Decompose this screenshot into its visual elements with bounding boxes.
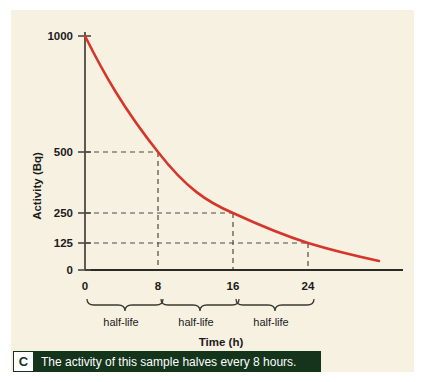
decay-chart: 1000 500 250 125 0 Activity (Bq) 0 8 16 … bbox=[11, 10, 414, 372]
y-tick-label-125: 125 bbox=[54, 237, 74, 249]
caption-letter: C bbox=[14, 352, 33, 371]
half-life-label-3: half-life bbox=[253, 316, 288, 328]
half-life-braces bbox=[87, 299, 314, 311]
brace-3 bbox=[236, 299, 314, 311]
half-life-label-2: half-life bbox=[178, 316, 213, 328]
x-tick-label-24: 24 bbox=[302, 280, 315, 292]
x-axis-title: Time (h) bbox=[199, 336, 244, 348]
x-tick-label-16: 16 bbox=[227, 280, 240, 292]
figure-panel: 1000 500 250 125 0 Activity (Bq) 0 8 16 … bbox=[11, 10, 414, 372]
y-tick-label-250: 250 bbox=[54, 207, 73, 219]
x-tick-label-8: 8 bbox=[155, 280, 162, 292]
figure-caption-bar: C The activity of this sample halves eve… bbox=[13, 351, 321, 372]
chart-plot-area: 1000 500 250 125 0 Activity (Bq) 0 8 16 … bbox=[11, 10, 414, 372]
y-axis-title: Activity (Bq) bbox=[31, 152, 43, 220]
guide-lines bbox=[85, 152, 308, 270]
x-tick-label-0: 0 bbox=[82, 280, 88, 292]
y-tick-label-1000: 1000 bbox=[47, 30, 73, 42]
brace-2 bbox=[161, 299, 239, 311]
half-life-label-1: half-life bbox=[103, 316, 138, 328]
y-tick-label-0: 0 bbox=[67, 264, 73, 276]
figure-container: 1000 500 250 125 0 Activity (Bq) 0 8 16 … bbox=[0, 0, 423, 382]
decay-curve bbox=[85, 36, 379, 261]
caption-text: The activity of this sample halves every… bbox=[41, 355, 296, 369]
brace-1 bbox=[87, 299, 163, 311]
y-tick-label-500: 500 bbox=[54, 146, 73, 158]
